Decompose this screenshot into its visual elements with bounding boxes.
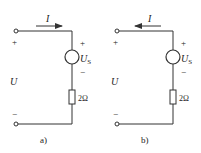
- caption-b: b): [141, 135, 149, 145]
- current-label: I: [45, 13, 50, 24]
- voltage-source-icon: [65, 50, 79, 64]
- current-label: I: [147, 13, 152, 24]
- source-label: US: [80, 53, 91, 66]
- source-minus: −: [181, 67, 186, 77]
- terminal-minus: −: [113, 109, 118, 119]
- terminal-top: [115, 29, 119, 33]
- resistor-icon: [170, 90, 176, 104]
- terminal-minus: −: [12, 109, 17, 119]
- resistor-label: 2Ω: [78, 94, 88, 103]
- terminal-plus: +: [12, 37, 17, 47]
- voltage-label: U: [111, 76, 119, 87]
- terminal-bottom: [14, 122, 18, 126]
- source-minus: −: [80, 67, 85, 77]
- voltage-label: U: [10, 76, 18, 87]
- resistor-icon: [69, 90, 75, 104]
- terminal-bottom: [115, 122, 119, 126]
- caption-a: a): [40, 135, 47, 145]
- voltage-source-icon: [166, 50, 180, 64]
- terminal-top: [14, 29, 18, 33]
- source-plus: +: [181, 38, 186, 48]
- circuit-a: I + US − 2Ω + U − a): [10, 13, 91, 145]
- source-label: US: [181, 53, 192, 66]
- resistor-label: 2Ω: [179, 94, 189, 103]
- terminal-plus: +: [113, 37, 118, 47]
- circuit-b: I + US − 2Ω + U − b): [111, 13, 192, 145]
- source-plus: +: [80, 38, 85, 48]
- circuit-diagrams: I + US − 2Ω + U − a) I + US − 2Ω + U − b…: [0, 0, 201, 153]
